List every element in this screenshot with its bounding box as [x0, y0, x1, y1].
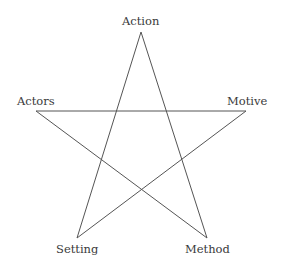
pentagram-diagram: Action Motive Method Setting Actors	[0, 0, 282, 272]
node-label-actors: Actors	[17, 96, 55, 108]
edge-action-setting	[77, 32, 141, 238]
edge-actors-method	[36, 111, 207, 238]
node-label-setting: Setting	[56, 244, 98, 256]
pentagram-lines	[0, 0, 282, 272]
edge-motive-setting	[77, 111, 246, 238]
node-label-method: Method	[185, 244, 230, 256]
node-label-motive: Motive	[227, 96, 267, 108]
node-label-action: Action	[122, 16, 159, 28]
edge-action-method	[141, 32, 207, 238]
